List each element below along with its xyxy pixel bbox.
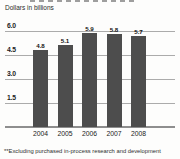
bar-2005 [58,45,73,127]
ytick-label-3.0: 3.0 [7,70,23,77]
bar-value-2005: 5.1 [55,37,75,44]
bar-2004 [33,50,48,127]
bar-value-2004: 4.8 [31,42,51,49]
bar-value-2007: 5.8 [104,26,124,33]
bar-chart: Dollars in billions **Excluding purchase… [0,0,180,159]
x-tick-label-2007: 2007 [101,130,127,137]
x-tick-label-2005: 2005 [52,130,78,137]
x-tick-label-2008: 2008 [126,130,152,137]
bar-2007 [107,34,122,127]
x-tick-label-2006: 2006 [77,130,103,137]
x-tick-label-2004: 2004 [28,130,54,137]
ytick-label-4.5: 4.5 [7,46,23,53]
ytick-label-1.5: 1.5 [7,94,23,101]
ytick-label-6.0: 6.0 [7,22,23,29]
chart-footnote: **Excluding purchased in-process researc… [4,148,178,154]
bar-2008 [131,36,146,127]
chart-units-label: Dollars in billions [5,4,54,11]
bar-value-2008: 5.7 [129,28,149,35]
bar-value-2006: 5.9 [80,25,100,32]
bar-2006 [82,33,97,127]
cropped-title-text-remnant [30,0,136,2]
